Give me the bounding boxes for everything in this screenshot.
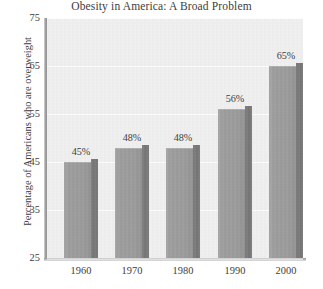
bar-front-face [269, 66, 296, 258]
x-tick-label: 1960 [54, 265, 108, 276]
bar-side-face [245, 106, 252, 258]
bar-side-face [91, 159, 98, 258]
bar-front-face [166, 148, 193, 258]
y-tick-label: 65 [0, 60, 40, 71]
bar[interactable] [115, 148, 149, 258]
x-tick-label: 1990 [208, 265, 262, 276]
bar-value-label: 65% [261, 50, 311, 61]
y-tick-label: 45 [0, 156, 40, 167]
y-tick-label: 75 [0, 12, 40, 23]
bar[interactable] [218, 109, 252, 258]
y-axis-tick-labels: 253545556575 [0, 0, 40, 289]
y-axis-line [44, 18, 47, 259]
bar-side-face [142, 145, 149, 258]
bar-value-label: 48% [158, 132, 208, 143]
plot-floor-edge [47, 258, 303, 260]
bar-side-face [193, 145, 200, 258]
y-tick-label: 35 [0, 204, 40, 215]
x-tick-label: 1970 [105, 265, 159, 276]
bar-front-face [64, 162, 91, 258]
bar-value-label: 45% [56, 146, 106, 157]
gridline [47, 18, 303, 19]
bar-front-face [115, 148, 142, 258]
gridline [47, 114, 303, 115]
bar-value-label: 56% [210, 93, 260, 104]
y-tick-label: 25 [0, 252, 40, 263]
y-tick-label: 55 [0, 108, 40, 119]
chart-title: Obesity in America: A Broad Problem [0, 0, 323, 12]
bar[interactable] [269, 66, 303, 258]
bar-value-label: 48% [107, 132, 157, 143]
x-tick-label: 2000 [259, 265, 313, 276]
bar[interactable] [64, 162, 98, 258]
bar-chart: Obesity in America: A Broad Problem Perc… [0, 0, 323, 289]
x-tick-label: 1980 [156, 265, 210, 276]
bar[interactable] [166, 148, 200, 258]
bar-front-face [218, 109, 245, 258]
bar-side-face [296, 63, 303, 258]
gridline [47, 66, 303, 67]
